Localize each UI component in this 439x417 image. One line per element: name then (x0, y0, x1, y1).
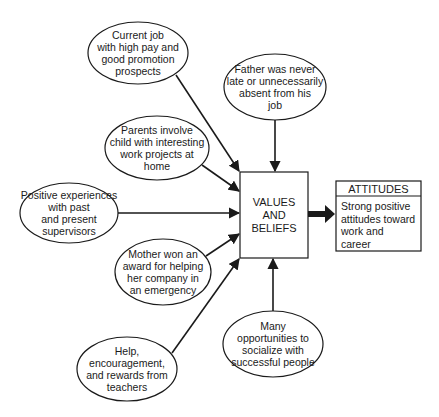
label-supervisors: Positive experiences with past and prese… (20, 183, 118, 243)
arrow-to-attitudes (308, 205, 335, 223)
label-socialize: Many opportunities to socialize with suc… (223, 311, 323, 377)
label-current-job: Current job with high pay and good promo… (88, 22, 188, 84)
values-beliefs-label: VALUES AND BELIEFS (240, 172, 308, 258)
label-father: Father was never late or unnecessarily a… (224, 54, 326, 120)
label-parents: Parents involve child with interesting w… (105, 116, 209, 180)
diagram-canvas: Current job with high pay and good promo… (0, 0, 439, 417)
attitudes-header: ATTITUDES (336, 183, 421, 196)
attitudes-body: Strong positive attitudes toward work an… (341, 200, 421, 250)
label-teachers: Help, encouragement, and rewards from te… (77, 337, 177, 401)
label-mother: Mother won an award for helping her comp… (115, 239, 211, 305)
